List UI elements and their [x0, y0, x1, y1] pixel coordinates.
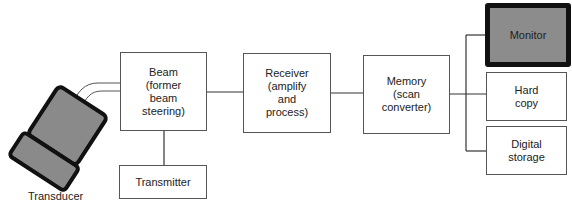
digital-storage-block: Digital storage	[486, 126, 567, 175]
memory-label: Memory (scan converter)	[382, 75, 432, 114]
transducer-label: Transducer	[28, 190, 83, 202]
receiver-block: Receiver (amplify and process)	[243, 53, 331, 133]
monitor-label: Monitor	[510, 29, 547, 42]
transducer-icon	[9, 83, 111, 191]
memory-block: Memory (scan converter)	[363, 55, 450, 134]
digital-storage-label: Digital storage	[508, 138, 545, 164]
transmitter-label: Transmitter	[135, 176, 190, 189]
receiver-label: Receiver (amplify and process)	[265, 67, 308, 119]
monitor-block: Monitor	[485, 3, 571, 67]
hard-copy-label: Hard copy	[515, 84, 539, 110]
hard-copy-block: Hard copy	[486, 72, 567, 121]
transmitter-block: Transmitter	[119, 165, 207, 199]
beam-former-block: Beam (former beam steering)	[120, 52, 207, 131]
beam-former-label: Beam (former beam steering)	[142, 66, 185, 118]
